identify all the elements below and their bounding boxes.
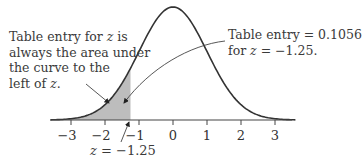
tick-label: 0: [169, 128, 177, 143]
tick-label: −2: [91, 128, 110, 143]
tick-label: 2: [237, 128, 245, 143]
left-annotation-line: left of z.: [9, 76, 150, 92]
left-annotation-line: Table entry for z is: [9, 29, 150, 45]
tick-label: −3: [57, 128, 76, 143]
bottom-annotation: z = −1.25: [90, 143, 156, 159]
right-annotation: Table entry = 0.1056 for z = −1.25.: [228, 27, 362, 58]
right-annotation-line: for z = −1.25.: [228, 43, 362, 59]
right-annotation-line: Table entry = 0.1056: [228, 27, 362, 43]
left-annotation-line: the curve to the: [9, 60, 150, 76]
left-annotation-line: always the area under: [9, 45, 150, 61]
left-annotation: Table entry for z is always the area und…: [9, 29, 150, 91]
tick-label: 1: [203, 128, 211, 143]
x-axis-ticks: −3−2−10123: [57, 120, 279, 143]
tick-label: −1: [125, 128, 144, 143]
tick-label: 3: [271, 128, 279, 143]
